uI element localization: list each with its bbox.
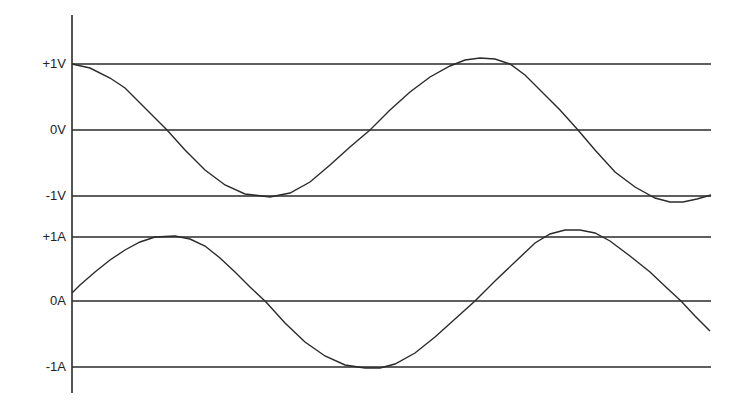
- label-minus-1v: -1V: [6, 189, 66, 203]
- label-minus-1a: -1A: [6, 360, 66, 374]
- current-waveform: [72, 230, 710, 368]
- waveform-diagram: [0, 0, 743, 409]
- label-0v: 0V: [6, 123, 66, 137]
- label-plus-1v: +1V: [6, 57, 66, 71]
- label-plus-1a: +1A: [6, 230, 66, 244]
- label-0a: 0A: [6, 294, 66, 308]
